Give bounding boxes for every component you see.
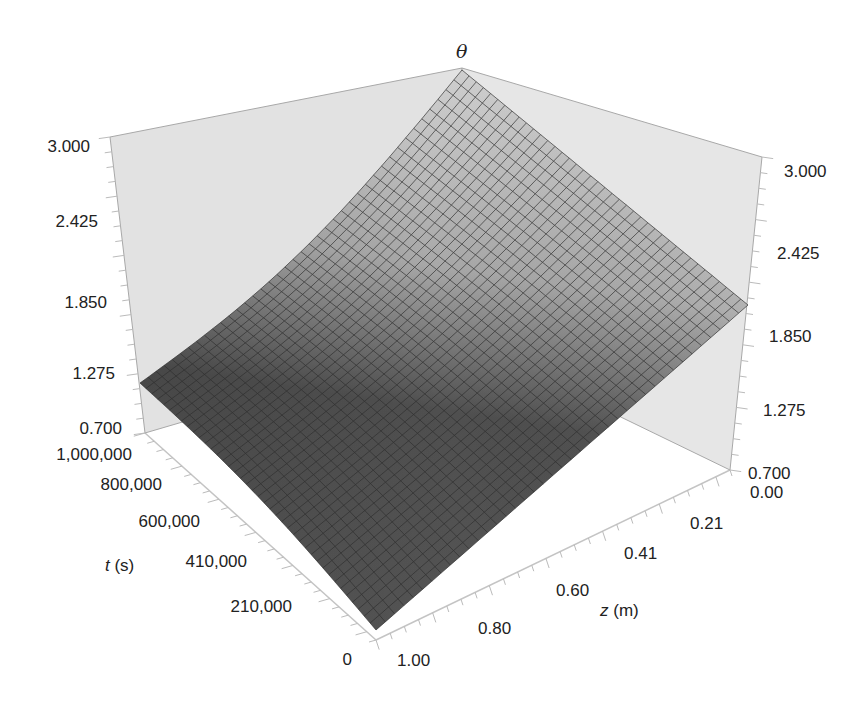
z-axis-variable: z (600, 601, 609, 620)
theta-tick-right-0700: 0.700 (748, 465, 791, 482)
theta-tick-right-1850: 1.850 (769, 328, 812, 345)
z-tick-080: 0.80 (478, 620, 511, 637)
z-tick-041: 0.41 (624, 545, 657, 562)
theta-tick-right-3000: 3.000 (784, 163, 827, 180)
t-axis-unit: (s) (110, 556, 135, 575)
t-axis-title: t (s) (105, 557, 134, 574)
t-tick-410000: 410,000 (135, 553, 247, 570)
z-tick-021: 0.21 (690, 515, 723, 532)
theta-tick-right-1275: 1.275 (763, 402, 806, 419)
t-tick-1000000: 1,000,000 (20, 446, 132, 463)
theta-tick-left-3000: 3.000 (28, 138, 90, 155)
theta-tick-left-0700: 0.700 (60, 420, 122, 437)
z-axis-unit: (m) (609, 601, 639, 620)
z-axis-title: z (m) (600, 602, 639, 619)
z-tick-060: 0.60 (556, 582, 589, 599)
z-tick-000: 0.00 (750, 484, 783, 501)
t-tick-0: 0 (240, 651, 352, 668)
z-tick-100: 1.00 (397, 652, 430, 669)
theta-axis-label: θ (456, 40, 467, 62)
t-tick-210000: 210,000 (180, 598, 292, 615)
theta-tick-left-1275: 1.275 (53, 365, 115, 382)
t-tick-800000: 800,000 (50, 476, 162, 493)
theta-tick-right-2425: 2.425 (777, 245, 820, 262)
t-tick-600000: 600,000 (88, 513, 200, 530)
surface-plot (0, 0, 856, 705)
theta-tick-left-1850: 1.850 (45, 294, 107, 311)
theta-tick-left-2425: 2.425 (36, 213, 98, 230)
